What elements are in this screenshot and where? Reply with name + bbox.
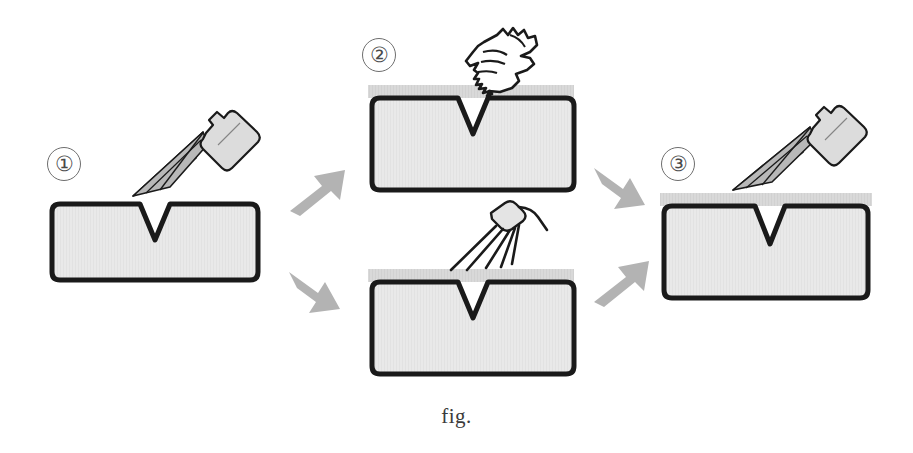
panel-step-2-lower — [368, 201, 574, 374]
panel-step-2-upper — [368, 28, 574, 190]
step-number-2: ② — [362, 38, 396, 72]
specimen-block-2-upper — [372, 98, 574, 190]
spray-cone-3 — [733, 127, 816, 190]
arrow-2-lower-to-3 — [594, 261, 649, 307]
spray-cone-1 — [133, 132, 208, 196]
specimen-block-3 — [664, 206, 868, 298]
spray-can-icon-1 — [201, 111, 260, 171]
figure-illustration — [0, 0, 913, 453]
arrow-2-upper-to-3 — [594, 168, 645, 209]
step-number-1: ① — [47, 147, 81, 181]
spray-can-icon-3 — [808, 106, 867, 166]
figure-container: ① ② ③ fig. — [0, 0, 913, 453]
specimen-block-1 — [52, 204, 258, 280]
specimen-block-2-lower — [372, 282, 574, 374]
water-nozzle-icon — [451, 201, 547, 270]
arrow-1-to-2-upper — [290, 170, 345, 216]
step-number-3: ③ — [661, 147, 695, 181]
arrow-1-to-2-lower — [289, 272, 340, 313]
panel-step-1 — [52, 111, 260, 280]
panel-step-3 — [660, 106, 872, 298]
figure-caption: fig. — [0, 404, 913, 429]
